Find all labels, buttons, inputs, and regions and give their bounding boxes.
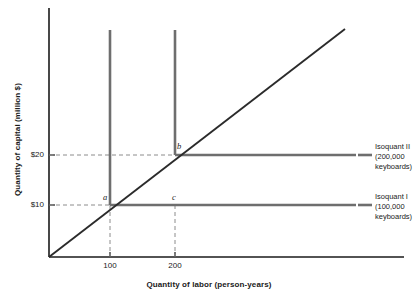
x-tick-label-100: 100 [90,261,130,270]
x-tick-label-200: 200 [155,261,195,270]
legend-item-isoquant-2: Isoquant II (200,000 keyboards) [375,142,418,172]
x-axis-title: Quantity of labor (person-years) [0,280,418,289]
chart-plot-area [0,0,418,300]
legend-isoquant-2-unit: keyboards) [375,162,418,172]
legend-isoquant-2-quantity: (200,000 [375,152,418,162]
point-label-b: b [177,141,181,151]
point-label-c: c [172,192,176,202]
isoquant-chart-figure: Quantity of labor (person-years) Quantit… [0,0,418,300]
y-tick-label-10: $10 [4,200,44,209]
legend-isoquant-2-name: Isoquant II [375,142,418,152]
point-label-a: a [103,192,107,202]
y-tick-label-20: $20 [4,150,44,159]
legend-isoquant-1-unit: keyboards) [375,212,418,222]
legend-isoquant-1-quantity: (100,000 [375,202,418,212]
legend-isoquant-1-name: Isoquant I [375,192,418,202]
legend-item-isoquant-1: Isoquant I (100,000 keyboards) [375,192,418,222]
expansion-path-ray [49,29,345,257]
